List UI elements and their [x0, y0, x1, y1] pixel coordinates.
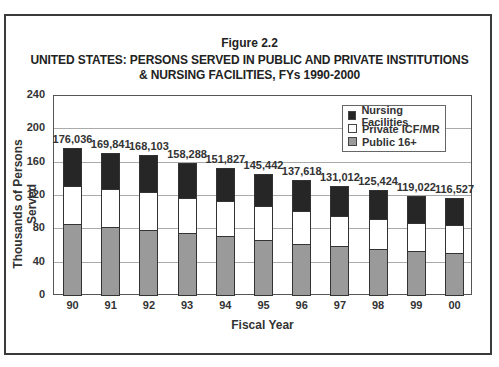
x-tick-label: 91	[96, 299, 126, 311]
x-tick-label: 97	[325, 299, 355, 311]
bar-segment-private	[330, 216, 349, 248]
bar-segment-private	[63, 186, 82, 225]
title-line-2: & NURSING FACILITIES, FYs 1990-2000	[0, 68, 499, 83]
bar-segment-private	[254, 206, 273, 241]
legend-item-public: Public 16+	[348, 135, 445, 148]
y-tick-label: 120	[5, 188, 45, 200]
bar-segment-public	[407, 251, 426, 296]
y-tick-label: 40	[5, 255, 45, 267]
bar-segment-private	[369, 219, 388, 249]
y-tick-label: 200	[5, 121, 45, 133]
y-tick-label: 240	[5, 88, 45, 100]
x-tick-label: 94	[210, 299, 240, 311]
x-tick-label: 00	[440, 299, 470, 311]
x-tick-label: 93	[172, 299, 202, 311]
bar-segment-private	[445, 225, 464, 254]
bar-segment-private	[139, 192, 158, 231]
legend: Nursing Facilities Private ICF/MR Public…	[342, 105, 446, 152]
bar-segment-public	[445, 253, 464, 296]
public-swatch-icon	[348, 137, 357, 146]
bar-segment-private	[101, 189, 120, 228]
y-tick-label: 160	[5, 155, 45, 167]
bar-segment-public	[139, 230, 158, 296]
bar-total-label: 116,527	[425, 183, 485, 195]
bar-segment-public	[292, 244, 311, 296]
private-swatch-icon	[348, 124, 357, 133]
y-tick-label: 0	[5, 288, 45, 300]
x-tick-label: 90	[58, 299, 88, 311]
bar-segment-public	[254, 240, 273, 296]
x-tick-label: 99	[401, 299, 431, 311]
bar-segment-nursing	[139, 155, 158, 193]
bar-segment-public	[369, 249, 388, 296]
bar-segment-private	[178, 198, 197, 234]
bar-segment-nursing	[407, 196, 426, 224]
bar-segment-nursing	[178, 163, 197, 199]
x-tick-label: 98	[363, 299, 393, 311]
x-axis-label: Fiscal Year	[53, 318, 472, 332]
bar-segment-nursing	[63, 148, 82, 187]
bar-segment-nursing	[216, 168, 235, 202]
bar-segment-nursing	[101, 153, 120, 189]
bar-segment-private	[216, 201, 235, 237]
bar-segment-nursing	[254, 174, 273, 208]
bar-segment-private	[292, 211, 311, 244]
x-tick-label: 95	[249, 299, 279, 311]
bar-segment-private	[407, 223, 426, 252]
figure-label: Figure 2.2	[0, 36, 499, 50]
legend-item-nursing: Nursing Facilities	[348, 109, 445, 122]
bar-segment-nursing	[445, 198, 464, 226]
title-line-1: UNITED STATES: PERSONS SERVED IN PUBLIC …	[0, 53, 499, 68]
bar-segment-public	[178, 233, 197, 296]
chart-title: UNITED STATES: PERSONS SERVED IN PUBLIC …	[0, 53, 499, 83]
bar-segment-nursing	[292, 180, 311, 212]
nursing-swatch-icon	[348, 111, 356, 120]
legend-item-private: Private ICF/MR	[348, 122, 445, 135]
bar-segment-nursing	[369, 190, 388, 220]
x-tick-label: 92	[134, 299, 164, 311]
bar-segment-nursing	[330, 186, 349, 217]
y-tick-label: 80	[5, 221, 45, 233]
bar-segment-public	[216, 236, 235, 296]
bar-segment-public	[63, 224, 82, 296]
x-tick-label: 96	[287, 299, 317, 311]
bar-segment-public	[330, 246, 349, 296]
bar-segment-public	[101, 227, 120, 296]
